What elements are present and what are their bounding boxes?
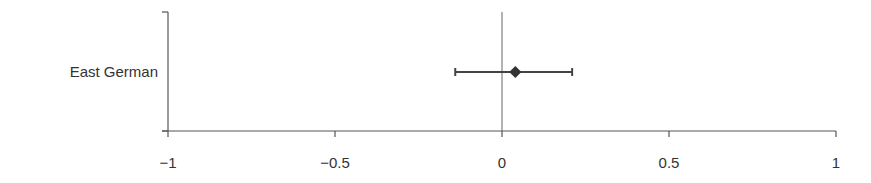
estimate-diamond-icon [509, 66, 521, 78]
estimate-with-ci [455, 66, 572, 78]
category-label: East German [70, 63, 158, 80]
x-tick-label: −1 [159, 154, 176, 171]
x-tick-label: 1 [832, 154, 840, 171]
x-tick-label: 0.5 [659, 154, 680, 171]
x-axis-ticks: −1−0.500.51 [159, 131, 840, 171]
forest-plot: −1−0.500.51 East German [0, 0, 871, 183]
x-tick-label: −0.5 [320, 154, 350, 171]
x-tick-label: 0 [498, 154, 506, 171]
